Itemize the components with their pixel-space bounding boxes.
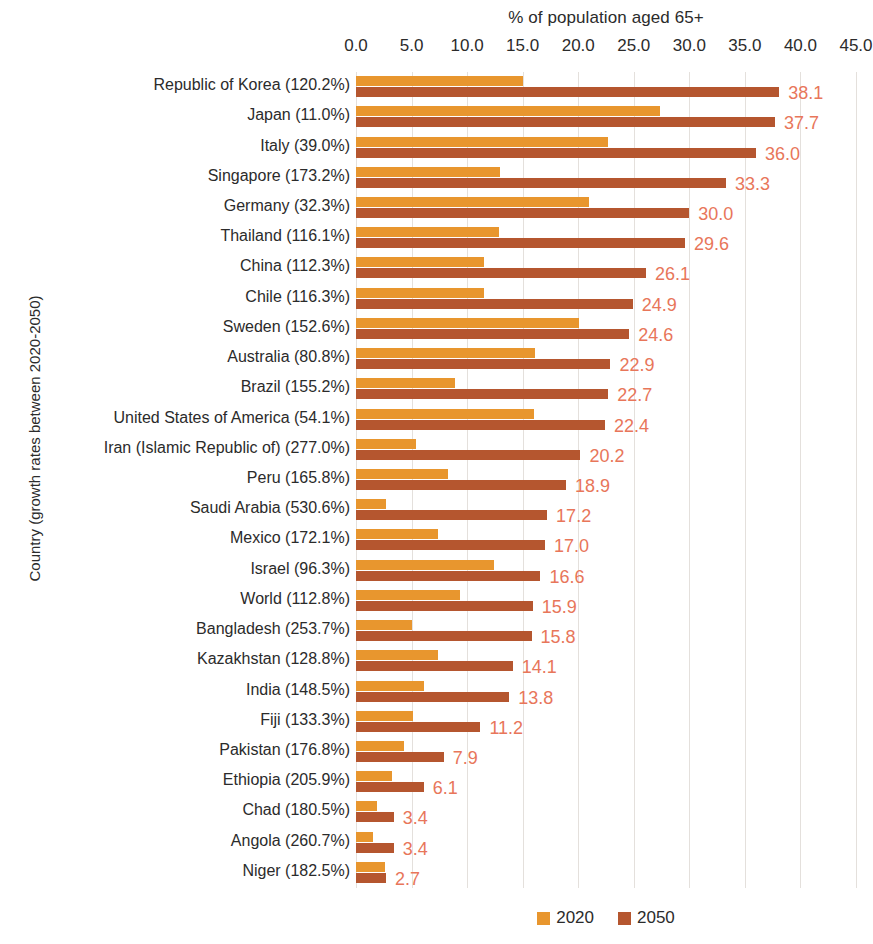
bar-2020 — [356, 832, 373, 842]
category-label: China (112.3%) — [0, 257, 350, 275]
legend-swatch-icon — [618, 912, 631, 925]
bar-2050 — [356, 480, 566, 490]
x-axis-tick-label: 10.0 — [451, 36, 484, 56]
bar-2020 — [356, 409, 534, 419]
bar-2020 — [356, 711, 413, 721]
chart-row: Sweden (152.6%)24.6 — [356, 314, 856, 344]
bar-2050 — [356, 208, 689, 218]
bar-2020 — [356, 499, 386, 509]
bar-2020 — [356, 76, 523, 86]
bar-2050 — [356, 812, 394, 822]
x-axis-tick-label: 15.0 — [506, 36, 539, 56]
bar-2050 — [356, 420, 605, 430]
bar-2050 — [356, 540, 545, 550]
chart-row: Australia (80.8%)22.9 — [356, 344, 856, 374]
category-label: Japan (11.0%) — [0, 106, 350, 124]
data-label: 17.2 — [556, 506, 591, 527]
bar-2050 — [356, 117, 775, 127]
category-label: World (112.8%) — [0, 590, 350, 608]
bar-2020 — [356, 469, 448, 479]
bar-2020 — [356, 529, 438, 539]
data-label: 14.1 — [522, 657, 557, 678]
legend-swatch-icon — [537, 912, 550, 925]
category-label: Sweden (152.6%) — [0, 318, 350, 336]
bar-2020 — [356, 378, 455, 388]
category-label: Ethiopia (205.9%) — [0, 771, 350, 789]
bar-2050 — [356, 782, 424, 792]
category-label: Mexico (172.1%) — [0, 529, 350, 547]
chart-row: World (112.8%)15.9 — [356, 586, 856, 616]
bar-2020 — [356, 288, 484, 298]
bar-2020 — [356, 801, 377, 811]
data-label: 3.4 — [403, 839, 428, 860]
chart-row: United States of America (54.1%)22.4 — [356, 404, 856, 434]
chart-row: Brazil (155.2%)22.7 — [356, 374, 856, 404]
legend-item[interactable]: 2020 — [537, 908, 594, 928]
x-axis-ticks: 0.05.010.015.020.025.030.035.040.045.0 — [0, 36, 866, 60]
chart-row: Japan (11.0%)37.7 — [356, 102, 856, 132]
data-label: 16.6 — [549, 567, 584, 588]
x-axis-tick-label: 40.0 — [784, 36, 817, 56]
data-label: 26.1 — [655, 264, 690, 285]
chart-row: Fiji (133.3%)11.2 — [356, 707, 856, 737]
bar-2050 — [356, 178, 726, 188]
bar-2020 — [356, 681, 424, 691]
data-label: 20.2 — [589, 446, 624, 467]
bar-2050 — [356, 359, 610, 369]
chart-row: Peru (165.8%)18.9 — [356, 465, 856, 495]
bar-2050 — [356, 571, 540, 581]
bar-2050 — [356, 450, 580, 460]
bar-2050 — [356, 843, 394, 853]
chart-row: Niger (182.5%)2.7 — [356, 858, 856, 888]
data-label: 33.3 — [735, 174, 770, 195]
chart-row: Italy (39.0%)36.0 — [356, 132, 856, 162]
bar-2020 — [356, 106, 660, 116]
bar-2050 — [356, 873, 386, 883]
bar-2020 — [356, 620, 412, 630]
bar-2020 — [356, 227, 499, 237]
bar-2020 — [356, 197, 589, 207]
data-label: 22.9 — [619, 355, 654, 376]
bar-2020 — [356, 257, 484, 267]
category-label: Angola (260.7%) — [0, 832, 350, 850]
category-label: Chad (180.5%) — [0, 801, 350, 819]
data-label: 6.1 — [433, 778, 458, 799]
data-label: 11.2 — [489, 718, 523, 739]
chart-row: Ethiopia (205.9%)6.1 — [356, 767, 856, 797]
bar-2050 — [356, 329, 629, 339]
x-axis-tick-label: 45.0 — [839, 36, 872, 56]
bar-2050 — [356, 268, 646, 278]
bar-2020 — [356, 650, 438, 660]
chart-row: Chile (116.3%)24.9 — [356, 284, 856, 314]
data-label: 22.7 — [617, 385, 652, 406]
data-label: 13.8 — [518, 688, 553, 709]
chart-row: Saudi Arabia (530.6%)17.2 — [356, 495, 856, 525]
data-label: 38.1 — [788, 83, 823, 104]
x-axis-tick-label: 25.0 — [617, 36, 650, 56]
bar-2050 — [356, 692, 509, 702]
chart-row: Pakistan (176.8%)7.9 — [356, 737, 856, 767]
category-label: Germany (32.3%) — [0, 197, 350, 215]
bar-2020 — [356, 137, 608, 147]
x-axis-tick-label: 30.0 — [673, 36, 706, 56]
legend-item[interactable]: 2050 — [618, 908, 675, 928]
x-axis-tick-label: 20.0 — [562, 36, 595, 56]
category-label: Brazil (155.2%) — [0, 378, 350, 396]
chart-row: Chad (180.5%)3.4 — [356, 797, 856, 827]
category-label: Australia (80.8%) — [0, 348, 350, 366]
category-label: Kazakhstan (128.8%) — [0, 650, 350, 668]
bar-2020 — [356, 590, 460, 600]
bar-2020 — [356, 318, 579, 328]
category-label: Fiji (133.3%) — [0, 711, 350, 729]
data-label: 18.9 — [575, 476, 610, 497]
bar-2020 — [356, 439, 416, 449]
data-label: 3.4 — [403, 808, 428, 829]
bar-2050 — [356, 601, 533, 611]
chart-row: India (148.5%)13.8 — [356, 676, 856, 706]
bar-2020 — [356, 560, 494, 570]
bar-2050 — [356, 631, 532, 641]
plot-area: Republic of Korea (120.2%)38.1Japan (11.… — [356, 72, 856, 888]
data-label: 24.9 — [642, 295, 677, 316]
category-label: Republic of Korea (120.2%) — [0, 76, 350, 94]
data-label: 29.6 — [694, 234, 729, 255]
